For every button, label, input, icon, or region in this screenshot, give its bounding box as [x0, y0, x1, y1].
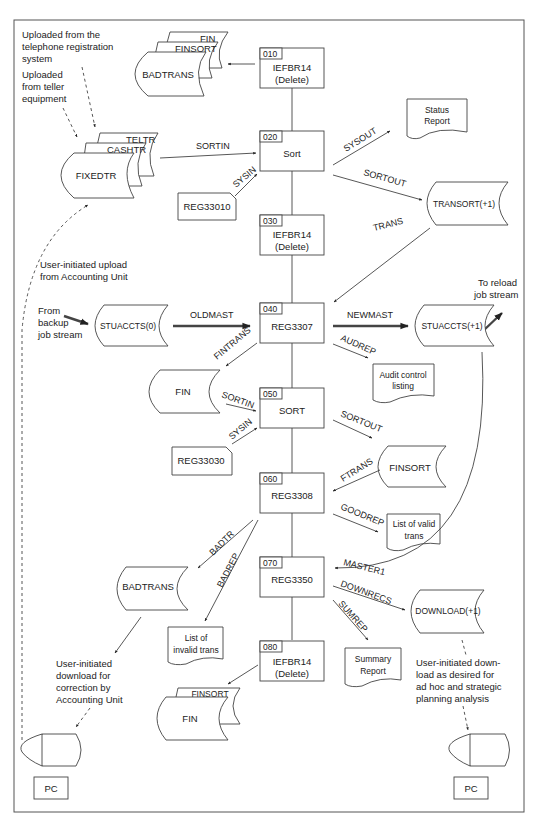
dashed-arrow-adhoc — [463, 706, 468, 730]
svg-text:FIXEDTR: FIXEDTR — [76, 170, 117, 181]
svg-text:From: From — [38, 305, 60, 316]
arrow-080-to-delete — [228, 665, 258, 684]
svg-text:ad hoc and strategic: ad hoc and strategic — [416, 681, 502, 692]
step-060: 060 REG3308 — [260, 473, 324, 513]
svg-text:Summary: Summary — [355, 654, 392, 664]
dashed-arrow-teller — [63, 108, 77, 137]
svg-text:Accounting Unit: Accounting Unit — [56, 694, 123, 705]
svg-text:040: 040 — [263, 304, 277, 314]
svg-text:Report: Report — [424, 116, 450, 126]
svg-text:load as desired for: load as desired for — [416, 669, 494, 680]
svg-text:invalid trans: invalid trans — [173, 645, 218, 655]
file-stuaccts-old: STUACCTS(0) — [95, 305, 168, 346]
svg-text:List of valid: List of valid — [393, 519, 436, 529]
pc-terminal-left: PC — [21, 734, 81, 799]
file-stack-delete-010: FIN FINSORT BADTRANS — [135, 32, 228, 96]
svg-text:030: 030 — [263, 216, 277, 226]
dashed-arrow-correction — [76, 708, 90, 727]
svg-text:Audit control: Audit control — [379, 370, 426, 380]
ddname-sumrep: SUMREP — [337, 599, 370, 634]
svg-text:IEFBR14: IEFBR14 — [273, 229, 312, 240]
svg-text:(Delete): (Delete) — [275, 74, 309, 85]
svg-text:system: system — [22, 53, 52, 64]
ddname-audrep: AUDREP — [339, 333, 377, 357]
svg-text:PC: PC — [44, 783, 57, 794]
ddname-sortin-2: SORTIN — [220, 389, 255, 410]
ddname-badrep: BADREP — [215, 552, 241, 589]
svg-text:050: 050 — [263, 389, 277, 399]
svg-text:Sort: Sort — [283, 148, 301, 159]
svg-text:TRANSORT(+1): TRANSORT(+1) — [433, 199, 495, 209]
ddname-newmast: NEWMAST — [347, 310, 394, 320]
svg-text:BADTRANS: BADTRANS — [142, 69, 194, 80]
ddname-ftrans: FTRANS — [339, 456, 375, 484]
ddname-goodrep: GOODREP — [339, 502, 385, 529]
svg-text:FINSORT: FINSORT — [389, 462, 431, 473]
svg-text:job stream: job stream — [473, 289, 518, 300]
svg-text:(Delete): (Delete) — [275, 668, 309, 679]
file-fin: FIN — [149, 370, 220, 413]
file-stuaccts-new: STUACCTS(+1) — [415, 305, 494, 346]
svg-text:Uploaded from the: Uploaded from the — [22, 29, 100, 40]
step-010: 010 IEFBR14 (Delete) — [260, 48, 324, 88]
note-teller-upload: Uploaded from teller equipment — [22, 69, 67, 104]
report-summary: Summary Report — [345, 648, 401, 687]
svg-text:060: 060 — [263, 474, 277, 484]
svg-text:IEFBR14: IEFBR14 — [273, 62, 312, 73]
svg-text:User-initiated upload: User-initiated upload — [40, 259, 127, 270]
report-invalid-trans: List of invalid trans — [168, 627, 223, 665]
ddname-sysout: SYSOUT — [342, 125, 379, 153]
ddname-master1: MASTER1 — [343, 557, 387, 577]
step-040: 040 REG3307 — [260, 303, 324, 343]
file-stack-delete-080: FINSORT FIN — [157, 688, 240, 740]
svg-text:010: 010 — [263, 49, 277, 59]
svg-text:To reload: To reload — [478, 277, 517, 288]
step-070: 070 REG3350 — [260, 557, 324, 597]
dashed-line-download — [462, 640, 466, 655]
svg-text:IEFBR14: IEFBR14 — [273, 656, 312, 667]
step-020: 020 Sort — [260, 131, 324, 171]
svg-text:job stream: job stream — [37, 329, 82, 340]
svg-text:PC: PC — [464, 783, 477, 794]
file-stack-input: TELTR CASHTR FIXEDTR — [61, 133, 158, 198]
note-telephone-upload: Uploaded from the telephone registration… — [22, 29, 113, 64]
svg-text:STUACCTS(+1): STUACCTS(+1) — [421, 321, 482, 331]
report-audit: Audit control listing — [373, 364, 434, 403]
job-stream-diagram: Uploaded from the telephone registration… — [0, 0, 538, 827]
ddname-sortout: SORTOUT — [362, 167, 407, 189]
svg-text:DOWNLOAD(+1): DOWNLOAD(+1) — [415, 606, 481, 616]
card-reg33010: REG33010 — [178, 193, 236, 220]
svg-text:Status: Status — [425, 105, 449, 115]
arrow-sortin-020 — [160, 153, 256, 158]
svg-text:from teller: from teller — [22, 81, 64, 92]
file-transort: TRANSORT(+1) — [427, 182, 508, 225]
step-050: 050 SORT — [260, 388, 324, 428]
step-080: 080 IEFBR14 (Delete) — [260, 641, 324, 681]
svg-text:planning analysis: planning analysis — [416, 693, 489, 704]
svg-text:020: 020 — [263, 132, 277, 142]
svg-text:List of: List of — [185, 633, 208, 643]
svg-text:REG3350: REG3350 — [271, 574, 313, 585]
step-030: 030 IEFBR14 (Delete) — [260, 215, 324, 255]
note-backup-jobstream: From backup job stream — [37, 305, 82, 340]
svg-text:REG3308: REG3308 — [271, 490, 313, 501]
ddname-trans: TRANS — [372, 216, 404, 233]
note-correction-download: User-initiated download for correction b… — [56, 658, 123, 705]
svg-text:REG33030: REG33030 — [177, 455, 224, 466]
svg-text:080: 080 — [263, 642, 277, 652]
ddname-sysin-2: SYSIN — [227, 417, 254, 442]
svg-text:FIN: FIN — [182, 713, 197, 724]
svg-text:Uploaded: Uploaded — [22, 69, 63, 80]
svg-text:telephone registration: telephone registration — [22, 41, 113, 52]
card-reg33030: REG33030 — [172, 447, 232, 475]
pc-terminal-right: PC — [449, 734, 510, 799]
svg-text:correction by: correction by — [56, 682, 111, 693]
ddname-sortout-2: SORTOUT — [339, 409, 384, 435]
file-badtrans: BADTRANS — [117, 567, 188, 610]
svg-text:BADTRANS: BADTRANS — [122, 581, 174, 592]
svg-text:listing: listing — [392, 381, 414, 391]
arrow-trans-040 — [334, 228, 430, 302]
svg-text:REG33010: REG33010 — [183, 201, 230, 212]
report-status: Status Report — [407, 99, 467, 139]
svg-text:User-initiated down-: User-initiated down- — [416, 657, 500, 668]
